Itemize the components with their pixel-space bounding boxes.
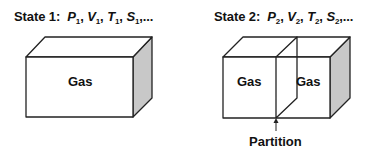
partition-label: Partition xyxy=(249,134,302,149)
gas-label-state-2-right: Gas xyxy=(296,74,321,89)
gas-label-state-1: Gas xyxy=(68,74,93,89)
diagram-canvas xyxy=(0,0,385,155)
box-1-top-face xyxy=(26,37,152,57)
partition-arrow-icon xyxy=(274,118,279,131)
gas-label-state-2-left: Gas xyxy=(237,74,262,89)
